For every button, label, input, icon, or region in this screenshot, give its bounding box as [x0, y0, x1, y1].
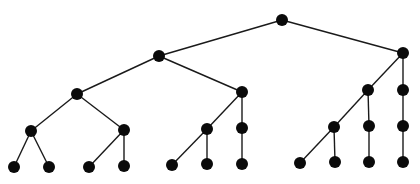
tree-node: [329, 156, 341, 168]
tree-node: [118, 160, 130, 172]
tree-node: [328, 121, 340, 133]
tree-node: [8, 161, 20, 173]
tree-node: [201, 158, 213, 170]
tree-edge: [159, 56, 242, 92]
tree-edge: [172, 129, 207, 165]
tree-node: [201, 123, 213, 135]
tree-edge: [300, 127, 334, 163]
tree-edge: [77, 94, 124, 130]
tree-node: [71, 88, 83, 100]
tree-node: [236, 158, 248, 170]
tree-edge: [368, 53, 403, 90]
tree-edge: [207, 92, 242, 129]
tree-node: [166, 159, 178, 171]
tree-edge: [77, 56, 159, 94]
tree-node: [276, 14, 288, 26]
tree-node: [397, 84, 409, 96]
tree-node: [397, 120, 409, 132]
tree-node: [294, 157, 306, 169]
tree-node: [236, 122, 248, 134]
tree-edge: [31, 131, 49, 167]
tree-edge: [282, 20, 403, 53]
tree-edge: [159, 20, 282, 56]
tree-node: [397, 156, 409, 168]
tree-node: [363, 156, 375, 168]
tree-edge: [31, 94, 77, 131]
tree-node: [236, 86, 248, 98]
tree-edge: [334, 90, 368, 127]
tree-node: [153, 50, 165, 62]
tree-node: [362, 84, 374, 96]
tree-node: [25, 125, 37, 137]
tree-node: [83, 161, 95, 173]
tree-node: [363, 120, 375, 132]
tree-node: [397, 47, 409, 59]
tree-node: [43, 161, 55, 173]
tree-node: [118, 124, 130, 136]
tree-edge: [89, 130, 124, 167]
tree-diagram: [0, 0, 420, 184]
